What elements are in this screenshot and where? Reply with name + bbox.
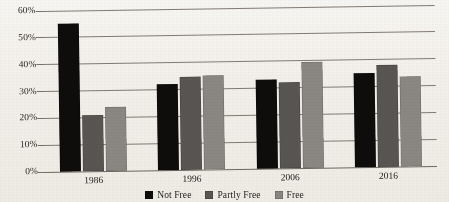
legend-label: Not Free: [157, 191, 191, 201]
y-tick-label: 50%: [0, 33, 36, 43]
y-tick-label: 20%: [0, 113, 37, 123]
legend-item: Not Free: [145, 191, 191, 201]
bar: [376, 65, 399, 167]
bar: [278, 82, 300, 168]
x-tick-label: 2006: [260, 173, 320, 183]
bar: [105, 106, 127, 171]
y-tick-label: 60%: [0, 6, 36, 16]
legend-label: Free: [287, 191, 304, 201]
bar: [353, 73, 375, 167]
legend-label: Partly Free: [217, 191, 260, 201]
scanned-page: 0%10%20%30%40%50%60% 1986199620062016 No…: [0, 0, 449, 202]
bar: [82, 115, 104, 172]
bar: [399, 76, 421, 166]
bar: [255, 80, 277, 169]
y-tick-label: 0%: [0, 167, 38, 177]
bar: [203, 75, 225, 169]
bar-chart: 0%10%20%30%40%50%60% 1986199620062016: [0, 0, 449, 202]
x-tick-label: 1996: [162, 174, 222, 184]
chart-legend: Not FreePartly FreeFree: [0, 191, 449, 201]
legend-item: Free: [275, 191, 304, 201]
x-tick-label: 1986: [64, 176, 124, 186]
bar: [180, 77, 202, 170]
legend-item: Partly Free: [205, 191, 260, 201]
y-axis: 0%10%20%30%40%50%60%: [0, 0, 38, 202]
legend-swatch-icon: [145, 191, 153, 199]
legend-swatch-icon: [275, 191, 283, 199]
bar: [301, 62, 324, 168]
y-tick-label: 10%: [0, 140, 38, 150]
bar: [58, 24, 81, 172]
legend-swatch-icon: [205, 191, 213, 199]
x-tick-label: 2016: [358, 171, 418, 181]
bar: [157, 84, 179, 170]
y-tick-label: 30%: [0, 87, 37, 97]
y-tick-label: 40%: [0, 60, 36, 70]
plot-area: 1986199620062016: [41, 0, 437, 202]
chart-plot-skew-wrapper: 0%10%20%30%40%50%60% 1986199620062016: [0, 0, 449, 202]
